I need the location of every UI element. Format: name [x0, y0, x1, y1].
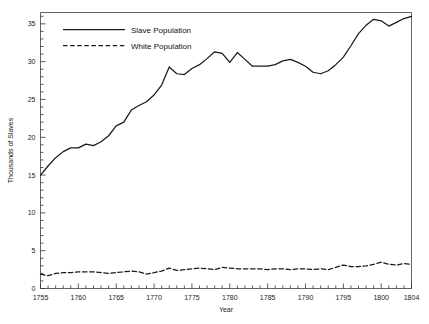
x-axis-tick-label: 1770 — [146, 294, 162, 301]
x-axis-tick-label: 1790 — [298, 294, 314, 301]
x-axis-tick-label: 1804 — [404, 294, 420, 301]
legend-label: Slave Population — [131, 26, 191, 35]
x-axis-tick-label: 1765 — [108, 294, 124, 301]
y-axis-tick-label: 5 — [32, 247, 36, 254]
legend-label: White Population — [131, 42, 191, 51]
series-line-slave-population — [41, 16, 412, 175]
line-chart: 0510152025303517551760176517701775178017… — [0, 0, 429, 324]
x-axis-tick-label: 1775 — [184, 294, 200, 301]
x-axis-tick-label: 1785 — [260, 294, 276, 301]
y-axis-tick-label: 30 — [28, 58, 36, 65]
y-axis-tick-label: 25 — [28, 96, 36, 103]
y-axis-title: Thousands of Slaves — [7, 117, 14, 183]
legend-item: Slave Population — [63, 26, 191, 35]
x-axis-tick-label: 1760 — [71, 294, 87, 301]
y-axis-tick-label: 35 — [28, 20, 36, 27]
y-axis-tick-label: 15 — [28, 172, 36, 179]
plot-frame — [41, 13, 412, 289]
y-axis-tick-label: 20 — [28, 134, 36, 141]
x-axis-tick-label: 1800 — [373, 294, 389, 301]
x-axis-tick-label: 1780 — [222, 294, 238, 301]
series-line-white-population — [41, 262, 412, 276]
x-axis-title: Year — [219, 306, 234, 313]
legend-item: White Population — [63, 42, 191, 51]
x-axis-tick-label: 1755 — [33, 294, 49, 301]
y-axis-tick-label: 0 — [32, 285, 36, 292]
chart-container: 0510152025303517551760176517701775178017… — [0, 0, 429, 324]
x-axis-tick-label: 1795 — [336, 294, 352, 301]
y-axis-tick-label: 10 — [28, 209, 36, 216]
